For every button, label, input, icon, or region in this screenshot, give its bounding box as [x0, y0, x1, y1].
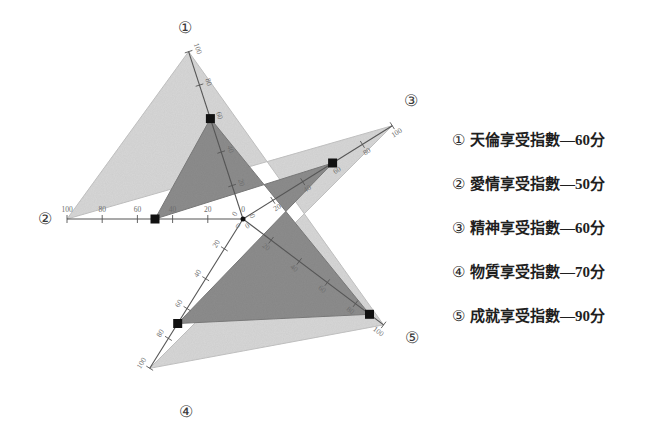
legend-item: ⑤ 成就享受指數—90分 [452, 304, 648, 325]
axis-tick-label: 0 [241, 205, 245, 214]
legend-item-label: 成就享受指數—90分 [470, 304, 605, 325]
radar-chart-figure: 0204060801000204060801000204060801000204… [0, 0, 440, 446]
axis-tick-label: 100 [389, 126, 404, 140]
axis-label-1: ① [178, 20, 192, 36]
legend-item-label: 天倫享受指數—60分 [470, 128, 605, 149]
axis-tick-label: 60 [173, 298, 185, 309]
axis-tick-label: 0 [230, 210, 240, 218]
axis-tick-label: 0 [247, 213, 257, 220]
legend-marker-icon: ⑤ [452, 307, 465, 325]
axis-label-3: ③ [404, 93, 418, 109]
legend-marker-icon: ② [452, 175, 465, 193]
legend: ① 天倫享受指數—60分 ② 愛情享受指數—50分 ③ 精神享受指數—60分 ④… [452, 128, 648, 348]
axis-tick-label: 60 [134, 205, 142, 214]
legend-item-label: 愛情享受指數—50分 [470, 172, 605, 193]
legend-item-label: 物質享受指數—70分 [470, 260, 605, 281]
axis-tick-label: 100 [61, 205, 73, 214]
axis-tick-label: 0 [234, 221, 243, 231]
axis-tick-label: 40 [192, 268, 204, 279]
legend-item: ① 天倫享受指數—60分 [452, 128, 648, 149]
axis-tick [202, 277, 209, 281]
legend-item: ④ 物質享受指數—70分 [452, 260, 648, 281]
axis-tick-label: 100 [135, 356, 149, 371]
axis-tick-label: 20 [210, 238, 222, 249]
legend-marker-icon: ④ [452, 263, 465, 281]
axis-tick [184, 306, 191, 310]
axis-label-2: ② [38, 211, 52, 227]
data-point-marker [365, 310, 374, 319]
axis-tick [165, 336, 172, 340]
axis-line [243, 126, 392, 219]
legend-marker-icon: ③ [452, 219, 465, 237]
legend-item-label: 精神享受指數—60分 [470, 216, 605, 237]
legend-marker-icon: ① [452, 131, 465, 149]
axis-tick-label: 40 [169, 205, 177, 214]
data-point-marker [173, 319, 182, 328]
axis-label-5: ⑤ [405, 330, 419, 346]
axis-tick-label: 80 [154, 327, 166, 338]
data-point-marker [206, 114, 215, 123]
legend-item: ② 愛情享受指數—50分 [452, 172, 648, 193]
axis-tick-label: 100 [192, 42, 204, 56]
axis-tick [221, 247, 228, 251]
legend-item: ③ 精神享受指數—60分 [452, 216, 648, 237]
axis-tick-label: 80 [98, 205, 106, 214]
axis-label-4: ④ [179, 404, 193, 420]
chart-center-point [241, 217, 246, 222]
axis-tick-label: 20 [204, 205, 212, 214]
radar-chart-svg: 0204060801000204060801000204060801000204… [0, 0, 440, 446]
data-point-marker [151, 215, 160, 224]
radar-chart-page: 0204060801000204060801000204060801000204… [0, 0, 650, 446]
